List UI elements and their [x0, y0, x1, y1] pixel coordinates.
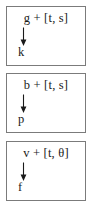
diagram-canvas: g + [t, s] k b + [t, s] p v + [t, θ] f [0, 0, 92, 203]
rule-box-2-conclusion: p [18, 112, 24, 127]
rule-box-3-conclusion: f [18, 180, 22, 195]
rule-box-2: b + [t, s] p [6, 73, 86, 133]
rule-box-1-premise: g + [t, s] [7, 11, 85, 25]
rule-box-2-premise: b + [t, s] [7, 78, 85, 92]
down-arrow-icon [18, 162, 29, 182]
down-arrow-icon [18, 94, 29, 114]
rule-box-1: g + [t, s] k [6, 6, 86, 66]
down-arrow-icon [18, 27, 29, 47]
rule-box-1-conclusion: k [18, 45, 24, 60]
rule-box-3: v + [t, θ] f [6, 141, 86, 201]
rule-box-3-premise: v + [t, θ] [7, 146, 85, 160]
